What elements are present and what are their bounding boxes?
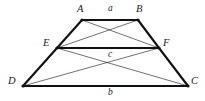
figure-canvas <box>0 0 205 101</box>
vertex-label-d: D <box>8 76 16 87</box>
segment-label-b: b <box>108 88 113 98</box>
thick-edge-group <box>23 20 188 86</box>
geometry-figure: ABEFDC acb <box>0 0 205 101</box>
vertex-label-a: A <box>77 4 83 15</box>
segment-label-a: a <box>108 4 113 14</box>
vertex-dot-c <box>186 84 189 87</box>
vertex-label-b: B <box>136 4 142 15</box>
vertex-dot-d <box>21 84 24 87</box>
edge-BF <box>138 20 159 48</box>
vertex-dot-e <box>55 46 58 49</box>
vertex-dot-b <box>136 18 139 21</box>
vertex-label-e: E <box>43 38 49 49</box>
edge-FC <box>159 48 188 86</box>
edge-ED <box>23 48 57 86</box>
diagonal-EC <box>57 48 188 86</box>
vertex-label-c: C <box>191 76 198 87</box>
vertex-dot-f <box>157 46 160 49</box>
vertex-dot-a <box>80 18 83 21</box>
segment-label-c: c <box>108 50 112 60</box>
vertex-label-f: F <box>163 38 169 49</box>
diagonal-DF <box>23 48 159 86</box>
